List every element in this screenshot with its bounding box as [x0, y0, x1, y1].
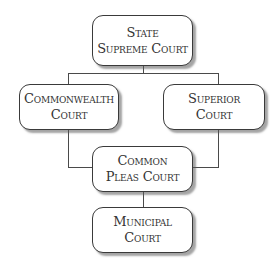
node-label-line-2: Pleas Court	[106, 169, 179, 185]
node-label-line-2: Court	[51, 107, 88, 123]
node-label-line-1: Municipal	[113, 214, 172, 230]
node-common-pleas-court: Common Pleas Court	[92, 146, 193, 192]
connector-commonwealth-down	[68, 129, 69, 168]
connector-superior-to-pleas	[192, 167, 219, 168]
connector-commonwealth-to-pleas	[68, 167, 93, 168]
court-hierarchy-diagram: State Supreme Court Commonwealth Court S…	[0, 0, 277, 275]
node-label-line-1: State	[127, 25, 159, 41]
node-label-line-1: Superior	[188, 91, 240, 107]
node-label-line-2: Supreme Court	[97, 41, 188, 57]
connector-horizontal-top	[68, 73, 219, 74]
node-label-line-2: Court	[124, 230, 161, 246]
node-superior-court: Superior Court	[163, 84, 265, 130]
node-municipal-court: Municipal Court	[92, 207, 193, 253]
connector-superior-down	[218, 129, 219, 168]
node-label-line-2: Court	[196, 107, 233, 123]
node-label-line-1: Common	[118, 153, 168, 169]
node-label-line-1: Commonwealth	[24, 91, 114, 107]
node-commonwealth-court: Commonwealth Court	[19, 84, 119, 130]
connector-pleas-to-municipal	[143, 191, 144, 208]
node-state-supreme-court: State Supreme Court	[92, 15, 193, 66]
